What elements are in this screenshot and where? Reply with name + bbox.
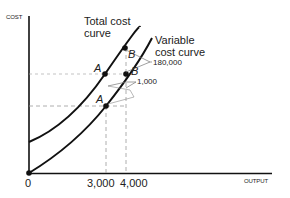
output-wedge — [108, 86, 134, 104]
total-cost-label-2: curve — [84, 27, 111, 39]
total-point-a-label: A — [94, 63, 101, 74]
cost-chart — [0, 0, 290, 198]
x-axis-label: OUTPUT — [244, 178, 268, 184]
var-point-b-label: B — [131, 66, 138, 77]
var-point-a — [103, 103, 109, 109]
var-point-a-label: A — [96, 94, 103, 105]
y-axis-label: COST — [6, 14, 22, 20]
variable-cost-label-2: cost curve — [155, 46, 205, 58]
tick-4000: 4,000 — [120, 178, 148, 189]
variable-cost-label-1: Variable — [155, 34, 195, 46]
total-point-a — [102, 71, 108, 77]
output-change-annotation: 1,000 — [137, 78, 157, 86]
total-point-b-label: B — [128, 49, 135, 60]
tick-3000: 3,000 — [87, 178, 115, 189]
gap-annotation: 180,000 — [153, 59, 182, 67]
total-point-b — [122, 45, 128, 51]
output-bracket — [126, 82, 136, 88]
total-cost-label-1: Total cost — [84, 15, 130, 27]
origin-point — [26, 170, 32, 176]
var-point-b — [123, 71, 129, 77]
origin-tick: 0 — [25, 178, 31, 189]
